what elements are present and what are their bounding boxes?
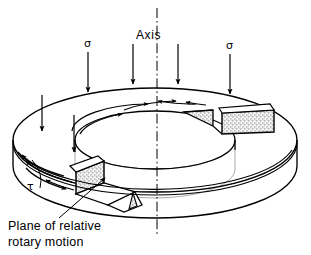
bore-wall xyxy=(75,140,235,152)
axis-label: Axis xyxy=(136,28,161,42)
sigma-label-right: σ xyxy=(226,40,233,53)
ring-top-face xyxy=(13,88,297,192)
cut-face-right-outer xyxy=(222,110,274,134)
caption-line-2: rotary motion xyxy=(8,235,84,250)
sigma-label-left: σ xyxy=(84,38,91,51)
tau-label: τ xyxy=(27,181,34,194)
caption-line-1: Plane of relative xyxy=(8,219,101,234)
figure-canvas: Axis σ σ τ Plane of relative rotary moti… xyxy=(0,0,311,255)
cut-face-inner-right xyxy=(184,110,213,126)
